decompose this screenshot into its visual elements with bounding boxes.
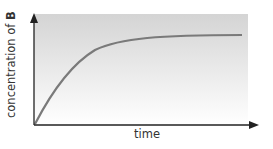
y-axis-label-species: B (4, 11, 18, 20)
y-axis-label: concentration of B (4, 11, 18, 118)
x-axis-label: time (134, 127, 160, 141)
x-axis-arrow-icon (249, 121, 259, 129)
plot-background (34, 14, 248, 125)
y-axis-label-text: concentration of (4, 20, 18, 118)
